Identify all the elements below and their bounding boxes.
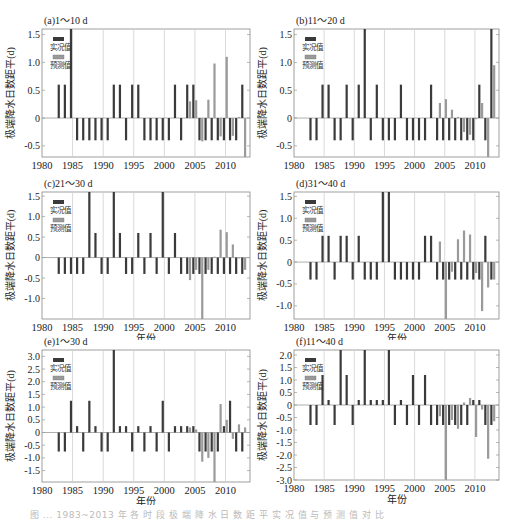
observed-bar — [107, 118, 109, 140]
y-tick-label: 1.0 — [28, 211, 41, 222]
observed-bar — [131, 433, 133, 452]
observed-bar — [186, 258, 188, 274]
observed-bar — [352, 262, 354, 280]
observed-bar — [192, 426, 194, 432]
x-tick-label: 1985 — [314, 160, 335, 170]
bar-chart: -1.0-0.500.51.01.51980198519901995200020… — [256, 170, 512, 340]
observed-bar — [418, 405, 420, 425]
observed-bar — [448, 262, 450, 280]
observed-bar — [400, 262, 402, 280]
predicted-bar — [469, 118, 471, 135]
legend-predicted-label: 预测值 — [302, 60, 324, 70]
predicted-bar — [469, 398, 471, 405]
legend-observed-swatch — [53, 358, 64, 362]
y-tick-label: -1.5 — [24, 465, 40, 476]
observed-bar — [406, 118, 408, 140]
predicted-bar — [232, 433, 234, 439]
predicted-bar — [493, 405, 495, 421]
legend-observed-label: 实况值 — [50, 205, 72, 215]
x-tick-label: 1980 — [32, 160, 53, 170]
observed-bar — [406, 262, 408, 280]
y-tick-label: 0 — [287, 113, 292, 124]
y-tick-label: -0.5 — [276, 278, 292, 289]
observed-bar — [137, 233, 139, 258]
observed-bar — [382, 118, 384, 140]
observed-bar — [436, 405, 438, 425]
predicted-bar — [220, 118, 222, 136]
observed-bar — [484, 118, 486, 140]
observed-bar — [180, 426, 182, 432]
observed-bar — [119, 426, 121, 432]
observed-bar — [376, 85, 378, 118]
observed-bar — [211, 433, 213, 452]
y-axis-label: 极端降水日数距平(d) — [256, 47, 269, 139]
x-tick-label: 2010 — [464, 483, 485, 494]
observed-bar — [229, 258, 231, 274]
observed-bar — [454, 118, 456, 140]
legend-predicted-swatch — [305, 218, 316, 222]
predicted-bar — [463, 403, 465, 406]
predicted-bar — [207, 258, 209, 270]
observed-bar — [168, 433, 170, 452]
observed-bar — [400, 85, 402, 118]
observed-bar — [352, 405, 354, 425]
observed-bar — [334, 262, 336, 280]
x-tick-label: 1980 — [284, 483, 305, 494]
observed-bar — [412, 375, 414, 405]
observed-bar — [418, 262, 420, 280]
predicted-bar — [463, 118, 465, 132]
y-tick-label: -0.5 — [276, 140, 292, 151]
predicted-bar — [493, 65, 495, 118]
y-tick-label: -1.0 — [24, 293, 40, 304]
observed-bar — [94, 233, 96, 258]
observed-bar — [466, 262, 468, 280]
observed-bar — [186, 426, 188, 432]
legend-observed-label: 实况值 — [302, 363, 324, 373]
y-axis-label: 极端降水日数距平(d) — [4, 370, 17, 462]
observed-bar — [168, 118, 170, 140]
observed-bar — [388, 192, 390, 262]
predicted-bar — [445, 99, 447, 118]
predicted-bar — [469, 234, 471, 262]
observed-bar — [82, 258, 84, 274]
panel-title: (b)11～20 d — [296, 15, 345, 27]
observed-bar — [394, 262, 396, 280]
legend-predicted-swatch — [53, 218, 64, 222]
y-tick-label: 0 — [287, 257, 292, 268]
y-tick-label: -2.0 — [276, 450, 292, 461]
figure-caption: 图 ... 1983~2013 年 各 时 段 极 端 降 水 日 数 距 平 … — [30, 508, 500, 519]
observed-bar — [478, 262, 480, 280]
observed-bar — [223, 258, 225, 274]
y-tick-label: 3.0 — [28, 351, 41, 362]
observed-bar — [388, 118, 390, 140]
x-tick-label: 2000 — [404, 322, 425, 333]
predicted-bar — [220, 230, 222, 258]
y-axis-label: 极端降水日数距平(d) — [4, 47, 17, 139]
x-tick-label: 2010 — [464, 322, 485, 333]
y-tick-label: -1.5 — [276, 437, 292, 448]
x-axis-label: 年份 — [387, 493, 407, 505]
observed-bar — [180, 118, 182, 140]
y-tick-label: 1.0 — [28, 402, 41, 413]
predicted-bar — [201, 433, 203, 462]
observed-bar — [241, 433, 243, 452]
observed-bar — [119, 233, 121, 258]
legend-predicted-label: 预测值 — [302, 223, 324, 233]
observed-bar — [430, 405, 432, 425]
x-tick-label: 2000 — [404, 160, 425, 170]
y-tick-label: 1.0 — [280, 57, 293, 68]
observed-bar — [334, 405, 336, 425]
legend-observed-swatch — [53, 37, 64, 41]
observed-bar — [174, 85, 176, 118]
y-tick-label: 1.5 — [280, 362, 293, 373]
observed-bar — [346, 236, 348, 262]
observed-bar — [223, 118, 225, 140]
observed-bar — [107, 433, 109, 452]
y-tick-label: 2.0 — [28, 376, 41, 387]
x-tick-label: 1995 — [123, 160, 144, 170]
observed-bar — [478, 400, 480, 405]
legend-predicted-swatch — [305, 376, 316, 380]
predicted-bar — [439, 405, 441, 416]
y-tick-label: -0.5 — [24, 273, 40, 284]
y-tick-label: -0.5 — [276, 412, 292, 423]
